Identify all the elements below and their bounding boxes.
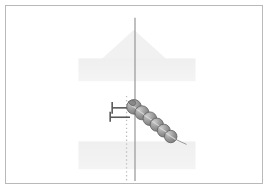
triangle-peak	[99, 30, 168, 62]
chain-segment	[164, 130, 177, 142]
background-shape-group	[78, 30, 195, 169]
figure-canvas	[6, 6, 262, 183]
upper-band	[78, 58, 195, 81]
figure-frame	[5, 5, 263, 184]
lower-band	[78, 141, 195, 169]
screenshot-viewport	[0, 0, 269, 190]
